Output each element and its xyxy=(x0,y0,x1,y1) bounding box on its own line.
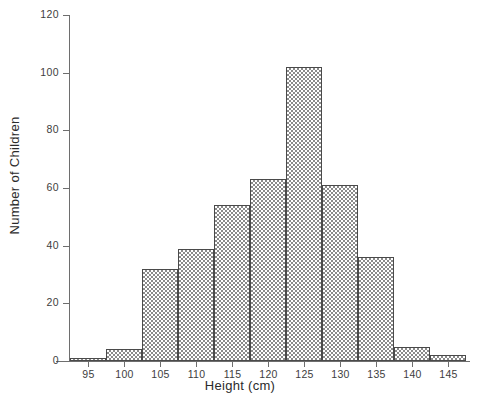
x-tick: 140 xyxy=(412,362,413,367)
x-tick: 115 xyxy=(232,362,233,367)
y-tick-label: 40 xyxy=(47,239,59,251)
x-tick: 110 xyxy=(196,362,197,367)
y-tick: 120 xyxy=(63,15,69,16)
x-tick: 120 xyxy=(268,362,269,367)
histogram-bar xyxy=(142,269,178,361)
y-tick-label: 60 xyxy=(47,181,59,193)
x-tick: 105 xyxy=(160,362,161,367)
histogram-bar xyxy=(250,179,286,361)
y-axis-title: Number of Children xyxy=(7,76,22,276)
y-tick-label: 120 xyxy=(40,8,59,20)
y-tick: 20 xyxy=(63,303,69,304)
histogram-bar xyxy=(430,355,466,361)
x-tick: 130 xyxy=(340,362,341,367)
histogram-bar xyxy=(106,349,142,361)
plot-area xyxy=(70,15,466,361)
y-tick-label: 100 xyxy=(40,66,59,78)
histogram-bar xyxy=(394,347,430,361)
y-tick: 0 xyxy=(63,361,69,362)
x-axis-title: Height (cm) xyxy=(0,378,480,393)
histogram-bar xyxy=(286,67,322,361)
y-tick: 40 xyxy=(63,246,69,247)
histogram-bar xyxy=(358,257,394,361)
x-tick: 100 xyxy=(124,362,125,367)
y-tick-label: 20 xyxy=(47,296,59,308)
x-tick: 125 xyxy=(304,362,305,367)
y-tick: 100 xyxy=(63,73,69,74)
histogram-bar xyxy=(70,358,106,361)
histogram-bar xyxy=(178,249,214,361)
y-tick-label: 0 xyxy=(53,354,59,366)
x-tick: 95 xyxy=(88,362,89,367)
histogram-figure: 020406080100120 951001051101151201251301… xyxy=(0,0,480,401)
histogram-bar xyxy=(214,205,250,361)
x-axis-line xyxy=(56,361,470,362)
x-tick: 135 xyxy=(376,362,377,367)
histogram-bar xyxy=(322,185,358,361)
y-tick-label: 80 xyxy=(47,123,59,135)
x-tick: 145 xyxy=(448,362,449,367)
y-tick: 80 xyxy=(63,130,69,131)
y-tick: 60 xyxy=(63,188,69,189)
